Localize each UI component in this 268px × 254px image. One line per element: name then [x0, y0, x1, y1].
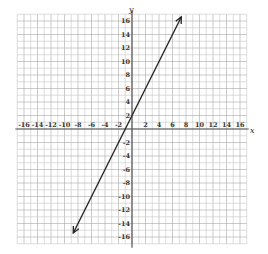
- y-tick-label: -12: [118, 206, 130, 214]
- x-tick-label: -6: [88, 121, 96, 129]
- x-tick-label: 4: [157, 121, 162, 129]
- x-tick-label: -12: [45, 121, 57, 129]
- coordinate-plane: -16-14-12-10-8-6-4-2246810121416-16-14-1…: [0, 0, 268, 254]
- y-tick-label: -16: [118, 233, 130, 241]
- y-tick-label: 4: [125, 98, 130, 106]
- y-tick-label: -2: [123, 139, 130, 147]
- y-tick-label: 2: [125, 112, 130, 120]
- y-tick-label: 10: [121, 58, 131, 66]
- x-tick-label: -10: [59, 121, 71, 129]
- y-tick-label: -4: [123, 152, 131, 160]
- x-axis-label: x: [250, 126, 255, 135]
- y-tick-label: -14: [118, 220, 130, 228]
- x-tick-label: -2: [115, 121, 122, 129]
- x-tick-label: -16: [18, 121, 30, 129]
- x-tick-label: -4: [101, 121, 109, 129]
- y-tick-label: -10: [118, 193, 130, 201]
- x-tick-label: -14: [32, 121, 44, 129]
- x-tick-label: -8: [74, 121, 82, 129]
- y-tick-label: 16: [121, 17, 131, 25]
- y-axis-label: y: [128, 5, 134, 14]
- y-tick-label: -8: [123, 179, 131, 187]
- x-tick-label: 14: [222, 121, 232, 129]
- x-tick-label: 16: [235, 121, 245, 129]
- y-tick-label: 12: [121, 44, 130, 52]
- x-tick-label: 8: [184, 121, 189, 129]
- axes: [15, 10, 249, 248]
- x-tick-label: 2: [143, 121, 148, 129]
- y-tick-label: 14: [121, 31, 131, 39]
- y-tick-label: 6: [125, 85, 130, 93]
- x-tick-label: 6: [170, 121, 175, 129]
- y-tick-label: 8: [125, 71, 130, 79]
- y-tick-label: -6: [123, 166, 131, 174]
- x-tick-label: 10: [195, 121, 205, 129]
- x-tick-label: 12: [208, 121, 217, 129]
